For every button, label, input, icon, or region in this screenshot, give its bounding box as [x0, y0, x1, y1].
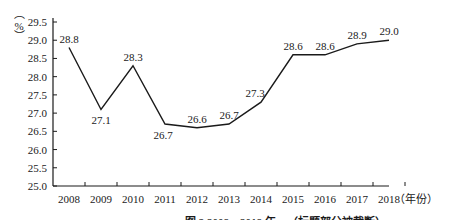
y-tick-label: 29.5	[28, 16, 48, 28]
data-point-label: 28.6	[315, 40, 335, 52]
x-tick-label: 2015	[282, 193, 305, 205]
x-tick-label: 2011	[154, 193, 176, 205]
y-tick-label: 29.0	[28, 34, 48, 46]
y-axis-unit-label: ︵%︶	[14, 8, 25, 42]
line-chart: 25.025.526.026.527.027.528.028.529.029.5…	[0, 0, 451, 220]
y-tick-label: 26.0	[28, 144, 48, 156]
x-tick-label: 2017	[346, 193, 369, 205]
y-tick-label: 25.5	[28, 162, 48, 174]
svg-text:︶: ︶	[14, 30, 25, 42]
svg-text:︵: ︵	[14, 8, 25, 20]
figure-caption: 图 3 2008—2018 年…（标题部分被截断）	[185, 215, 386, 220]
data-point-label: 28.9	[347, 29, 367, 41]
y-tick-label: 27.0	[28, 107, 48, 119]
y-tick-label: 28.5	[28, 52, 48, 64]
x-tick-label: 2012	[186, 193, 208, 205]
data-point-label: 28.3	[123, 51, 143, 63]
x-tick-label: 2013	[218, 193, 241, 205]
data-point-label: 27.1	[91, 114, 110, 126]
data-point-label: 26.7	[153, 129, 173, 141]
x-axis: 2008200920102011201220132014201520162017…	[53, 182, 405, 205]
data-point-label: 29.0	[379, 25, 399, 37]
data-point-label: 27.3	[245, 87, 265, 99]
data-point-label: 26.6	[187, 113, 207, 125]
y-axis: 25.025.526.026.527.027.528.028.529.029.5	[28, 16, 57, 192]
data-point-label: 28.6	[283, 40, 303, 52]
x-tick-label: 2008	[58, 193, 81, 205]
y-tick-label: 25.0	[28, 180, 48, 192]
data-point-label: 28.8	[59, 33, 79, 45]
y-tick-label: 27.5	[28, 89, 48, 101]
y-tick-label: 28.0	[28, 71, 48, 83]
y-tick-label: 26.5	[28, 125, 48, 137]
x-tick-label: 2010	[122, 193, 145, 205]
data-point-label: 26.7	[219, 109, 239, 121]
x-tick-label: 2009	[90, 193, 113, 205]
x-tick-label: 2014	[250, 193, 273, 205]
x-axis-unit-label: （年份）	[394, 192, 438, 205]
x-tick-label: 2016	[314, 193, 337, 205]
